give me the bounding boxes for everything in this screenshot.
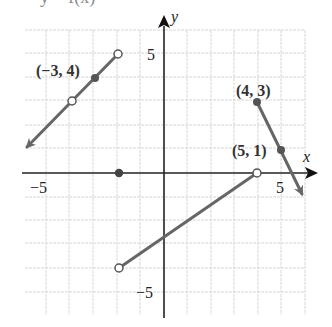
closed-point [277,146,285,154]
x-axis-label: x [302,148,310,165]
x-tick-5: 5 [276,179,284,196]
axes [22,15,318,318]
point-label-4-3: (4, 3) [236,82,271,100]
open-point [115,264,123,272]
open-point [253,169,261,177]
point-label-5-1: (5, 1) [232,142,267,160]
point-label-neg3-4: (−3, 4) [36,62,80,80]
open-point [68,97,76,105]
closed-point [91,74,99,82]
y-axis-label: y [169,8,179,26]
y-tick-5: 5 [147,46,155,63]
closed-point [115,169,123,177]
graph: y x 5 −5 −5 5 (−3, 4) (4, 3) (5, 1) [0,0,332,327]
open-point [114,50,122,58]
x-tick-neg5: −5 [30,179,47,196]
y-tick-neg5: −5 [136,284,153,301]
closed-point [253,98,261,106]
